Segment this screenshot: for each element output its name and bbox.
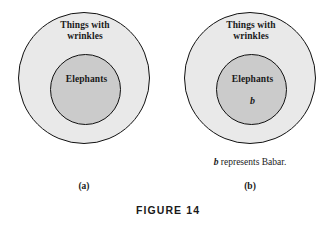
panel-caption-a: (a) [18,180,150,192]
inner-set-label-a: Elephants [51,74,122,85]
element-marker-b: b [217,95,288,106]
venn-panel-b: Things with wrinkles Elephants b b repre… [166,0,334,200]
figure-14-diagram: Things with wrinkles Elephants (a) Thing… [0,0,336,230]
outer-set-circle-b: Things with wrinkles Elephants b [184,12,316,144]
inner-set-circle-b: Elephants b [216,54,287,125]
inner-set-circle-a: Elephants [50,54,121,125]
legend-note-b: b represents Babar. [174,156,326,168]
inner-set-label-b: Elephants [217,74,288,85]
outer-set-circle-a: Things with wrinkles Elephants [18,12,150,144]
outer-set-label-b: Things with wrinkles [185,20,317,42]
panel-caption-b: (b) [184,180,316,192]
outer-set-label-a-line1: Things with [60,20,109,30]
outer-set-label-b-line1: Things with [226,20,275,30]
outer-set-label-a-line2: wrinkles [19,31,151,42]
figure-caption: FIGURE 14 [0,204,336,216]
outer-set-label-a: Things with wrinkles [19,20,151,42]
outer-set-label-b-line2: wrinkles [185,31,317,42]
legend-note-text: represents Babar. [218,157,286,167]
venn-panel-a: Things with wrinkles Elephants (a) [0,0,168,200]
